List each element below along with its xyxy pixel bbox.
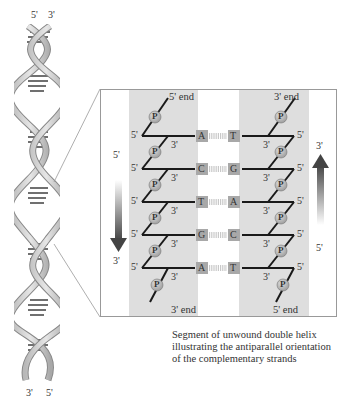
phosphate-label: P [280,280,286,289]
phosphate-label: P [278,246,284,255]
base-right: T [230,131,236,141]
base-left: A [198,263,205,273]
right-5prime: 5' [297,130,304,140]
phosphate-label: P [152,180,158,189]
phosphate-label: P [154,280,160,289]
left-direction-arrow-icon [110,180,127,252]
base-left: C [198,164,205,174]
base-right: G [230,164,237,174]
left-5prime: 5' [131,196,138,206]
left-3prime: 3' [171,239,178,249]
base-right: C [230,230,237,240]
right-arrow-bottom-label: 5' [316,243,323,253]
left-arrow-top-label: 5' [113,150,120,160]
right-3prime: 3' [263,272,270,282]
figure-caption: Segment of unwound double helix illustra… [172,329,331,365]
right-5prime: 5' [297,229,304,239]
left-5prime: 5' [131,130,138,140]
right-strand-top-end: 3' end [274,92,299,103]
right-3prime: 3' [263,206,270,216]
phosphate-label: P [278,180,284,189]
right-3prime: 3' [263,173,270,183]
caption-line-2: illustrating the antiparallel orientatio… [172,341,331,353]
right-5prime: 5' [297,163,304,173]
base-right: A [230,197,237,207]
left-5prime: 5' [131,229,138,239]
caption-line-1: Segment of unwound double helix [172,329,331,341]
left-3prime: 3' [171,140,178,150]
caption-line-3: of the complementary strands [172,353,331,365]
left-5prime: 5' [131,262,138,272]
base-left: A [198,131,205,141]
left-3prime: 3' [171,272,178,282]
right-5prime: 5' [297,196,304,206]
right-strand-bottom-end: 5' end [273,305,298,316]
base-right: T [230,263,236,273]
left-3prime: 3' [171,173,178,183]
phosphate-label: P [152,246,158,255]
left-strand-bottom-end: 3' end [171,305,196,316]
base-left: G [198,230,205,240]
phosphate-label: P [152,147,158,156]
right-arrow-top-label: 3' [316,141,323,151]
right-3prime: 3' [263,140,270,150]
phosphate-label: P [152,213,158,222]
phosphate-label: P [278,147,284,156]
right-5prime: 5' [297,262,304,272]
phosphate-label: P [278,112,284,121]
right-direction-arrow-icon [312,154,329,225]
left-5prime: 5' [131,163,138,173]
left-arrow-bottom-label: 3' [113,256,120,266]
left-3prime: 3' [171,206,178,216]
base-left: T [198,197,204,207]
phosphate-label: P [278,213,284,222]
hydrogen-bonds [209,134,227,270]
phosphate-label: P [152,112,158,121]
left-strand-top-end: 5' end [169,92,194,103]
right-3prime: 3' [263,239,270,249]
